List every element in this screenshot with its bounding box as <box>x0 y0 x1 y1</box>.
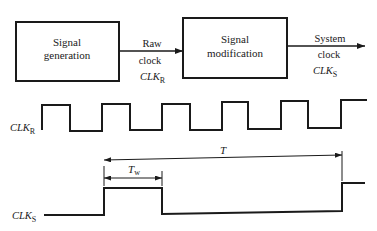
pulse-width-label: Tw <box>128 163 140 177</box>
signal-generation-block: Signal generation <box>16 22 119 81</box>
system-clock-arrow: System clock CLKS <box>287 33 365 79</box>
pulse-width-dimension: Tw <box>104 163 162 186</box>
clk-s-label: CLKS <box>12 210 36 224</box>
raw-clock-arrow: Raw clock CLKR <box>119 38 183 85</box>
clk-s-waveform: CLKS <box>12 183 365 224</box>
clock-diagram: Signal generation Raw clock CLKR Signal … <box>0 0 377 231</box>
period-label: T <box>220 144 227 156</box>
period-dimension: T <box>104 144 342 186</box>
system-clock-label-line1: System <box>315 33 346 44</box>
system-clock-symbol: CLKS <box>313 65 337 79</box>
raw-clock-label-line1: Raw <box>142 38 162 49</box>
raw-clock-label-line2: clock <box>139 55 162 66</box>
block-label-line2: generation <box>44 49 91 61</box>
block-label-line1: Signal <box>53 36 81 48</box>
block-label-line2: modification <box>207 47 264 59</box>
block-label-line1: Signal <box>221 33 249 45</box>
clk-r-label: CLKR <box>10 122 36 136</box>
system-clock-label-line2: clock <box>318 49 341 60</box>
clk-r-waveform: CLKR <box>10 100 367 136</box>
signal-modification-block: Signal modification <box>183 18 287 78</box>
raw-clock-symbol: CLKR <box>140 71 166 85</box>
